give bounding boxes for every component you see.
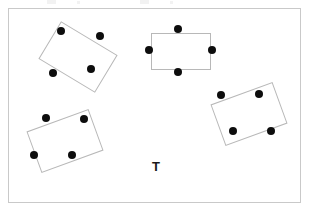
top-artifact-1	[47, 0, 56, 4]
table-top-middle-seat-1	[174, 25, 182, 33]
table-bottom-left-seat-2	[80, 115, 88, 123]
table-top-left-seat-3	[49, 69, 57, 77]
top-artifact-3	[140, 0, 149, 4]
top-artifact-4	[170, 1, 173, 4]
table-top-middle-seat-4	[174, 68, 182, 76]
table-top-left-seat-4	[87, 65, 95, 73]
table-right-seat-2	[255, 90, 263, 98]
table-top-middle-surface	[151, 33, 211, 70]
table-right-seat-4	[267, 127, 275, 135]
table-right-seat-1	[217, 91, 225, 99]
table-top-left-seat-2	[96, 32, 104, 40]
table-bottom-left-seat-4	[68, 151, 76, 159]
table-top-middle-seat-3	[208, 46, 216, 54]
top-artifact-2	[77, 1, 80, 4]
table-top-middle-seat-2	[145, 46, 153, 54]
table-bottom-left-seat-1	[42, 114, 50, 122]
table-top-left-seat-1	[57, 27, 65, 35]
t-label: T	[152, 160, 160, 173]
table-bottom-left-seat-3	[30, 151, 38, 159]
table-right-seat-3	[229, 127, 237, 135]
diagram-canvas: T	[0, 0, 309, 211]
